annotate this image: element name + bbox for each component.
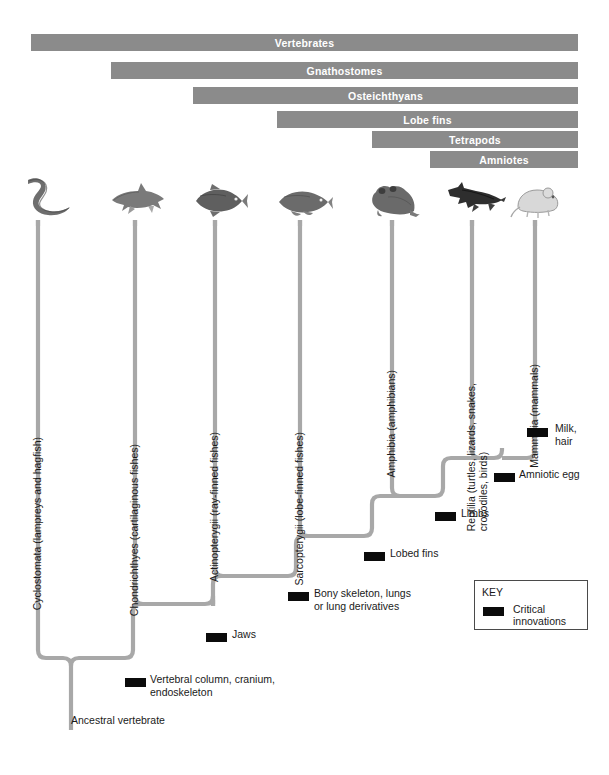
tree-branches xyxy=(0,0,609,775)
node-label-amniotic-egg: Amniotic egg xyxy=(519,468,580,481)
key-title: KEY xyxy=(482,586,503,598)
taxon-label-sarcopterygii: Sarcopterygii (lobe-finned fishes) xyxy=(294,432,306,586)
key-swatch-critical-innovations xyxy=(483,607,504,616)
innovation-mark-milk-hair xyxy=(527,428,548,437)
crocodile-silhouette xyxy=(444,178,506,220)
key-entry-label: Critical innovations xyxy=(513,603,587,627)
innovation-mark-amniotic-egg xyxy=(494,473,515,482)
taxon-label-mammalia: Mammalia (mammals) xyxy=(529,364,541,468)
taxon-label-actinopterygii: Actinopterygii (ray-finned fishes) xyxy=(209,432,221,582)
lobefin-fish-silhouette xyxy=(275,184,333,220)
shark-silhouette xyxy=(108,178,168,220)
innovation-mark-jaws xyxy=(206,633,227,642)
node-label-milk-hair: Milk, hair xyxy=(555,422,577,447)
innovation-mark-lobed-fins xyxy=(364,552,385,561)
taxon-label-amphibia: Amphibia (amphibians) xyxy=(386,370,398,477)
mouse-silhouette xyxy=(510,180,566,220)
taxon-label-cyclostomata: Cyclostomata (lampreys and hagfish) xyxy=(32,437,44,610)
frog-silhouette xyxy=(366,180,422,220)
rayfin-fish-silhouette xyxy=(190,182,248,220)
taxon-label-chondrichthyes: Chondrichthyes (cartilaginous fishes) xyxy=(129,444,141,616)
lamprey-silhouette xyxy=(20,172,76,220)
node-label-bony-skeleton: Bony skeleton, lungs or lung derivatives xyxy=(314,587,411,612)
innovation-mark-bony-skeleton xyxy=(288,592,309,601)
node-label-limbs: Limbs xyxy=(461,507,489,520)
node-label-lobed-fins: Lobed fins xyxy=(390,547,438,560)
key-box: KEY Critical innovations xyxy=(474,580,588,630)
root-label-ancestral-vertebrate: Ancestral vertebrate xyxy=(71,714,165,726)
innovation-mark-vertebral-column xyxy=(125,678,146,687)
node-label-vertebral-column: Vertebral column, cranium, endoskeleton xyxy=(150,673,275,698)
node-label-jaws: Jaws xyxy=(232,628,256,641)
phylogenetic-tree-figure: Vertebrates Gnathostomes Osteichthyans L… xyxy=(0,0,609,775)
innovation-mark-limbs xyxy=(435,512,456,521)
